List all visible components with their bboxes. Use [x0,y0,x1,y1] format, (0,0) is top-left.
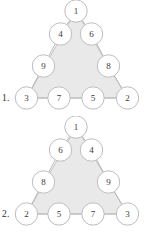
number-node[interactable]: 3 [116,203,138,225]
number-node-value: 3 [24,93,29,103]
number-node[interactable]: 5 [48,203,70,225]
number-node-value: 2 [24,209,29,219]
magic-triangle-diagram-1: 146983752 [0,0,155,116]
number-node[interactable]: 8 [97,55,119,77]
number-node-value: 4 [58,29,63,39]
number-node[interactable]: 2 [15,203,37,225]
number-node-value: 5 [57,209,62,219]
number-node[interactable]: 7 [82,203,104,225]
worksheet-page: 1. 146983752 2. 164892573 [0,0,155,232]
number-node-value: 7 [57,93,62,103]
number-node[interactable]: 6 [49,139,71,161]
number-node-value: 3 [125,209,130,219]
magic-triangle-diagram-2: 164892573 [0,116,155,232]
number-node[interactable]: 8 [32,171,54,193]
magic-triangle-puzzle-2: 2. 164892573 [0,116,155,232]
number-node-value: 1 [74,122,79,132]
number-node[interactable]: 1 [65,0,87,22]
number-node[interactable]: 9 [32,55,54,77]
number-node[interactable]: 5 [82,87,104,109]
number-node-value: 4 [89,145,94,155]
number-node[interactable]: 6 [80,23,102,45]
number-node-value: 2 [125,93,130,103]
number-node[interactable]: 3 [15,87,37,109]
number-node-value: 9 [41,61,46,71]
number-node-value: 6 [58,145,63,155]
number-node-value: 8 [106,61,111,71]
number-node-value: 8 [41,177,46,187]
number-node-value: 1 [74,6,79,16]
number-node-value: 6 [89,29,94,39]
number-node[interactable]: 1 [65,116,87,138]
number-node[interactable]: 9 [97,171,119,193]
number-node-value: 7 [91,209,96,219]
number-node[interactable]: 4 [80,139,102,161]
number-node[interactable]: 7 [48,87,70,109]
number-node-value: 5 [91,93,96,103]
number-node-value: 9 [106,177,111,187]
magic-triangle-puzzle-1: 1. 146983752 [0,0,155,116]
number-node[interactable]: 4 [49,23,71,45]
number-node[interactable]: 2 [116,87,138,109]
